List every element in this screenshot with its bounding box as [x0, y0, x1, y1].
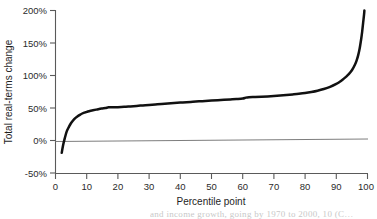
- x-axis-title: Percentile point: [177, 196, 246, 207]
- x-tick-label-10: 10: [81, 181, 92, 192]
- chart-container: 200% 150% 100% 50% 0% -50% 0 10 20 30: [0, 0, 377, 219]
- y-tick-label-50: 50%: [28, 103, 48, 114]
- y-tick-label-neg50: -50%: [25, 168, 48, 179]
- y-axis-title: Total real-terms change: [3, 39, 14, 144]
- x-tick-label-70: 70: [269, 181, 280, 192]
- x-tick-label-50: 50: [206, 181, 217, 192]
- x-tick-label-90: 90: [331, 181, 342, 192]
- y-tick-label-200: 200%: [23, 5, 48, 16]
- clipped-caption-fragment: and income growth, going by 1970 to 2000…: [150, 209, 377, 219]
- y-tick-label-100: 100%: [23, 70, 48, 81]
- y-tick-label-150: 150%: [23, 38, 48, 49]
- x-tick-label-0: 0: [53, 181, 58, 192]
- y-tick-label-0: 0%: [33, 135, 47, 146]
- x-tick-label-80: 80: [300, 181, 311, 192]
- percentile-change-line-chart: 200% 150% 100% 50% 0% -50% 0 10 20 30: [0, 0, 377, 219]
- x-tick-label-100: 100: [358, 181, 374, 192]
- x-tick-label-20: 20: [113, 181, 124, 192]
- x-tick-label-40: 40: [175, 181, 186, 192]
- x-tick-label-30: 30: [144, 181, 155, 192]
- x-tick-label-60: 60: [237, 181, 248, 192]
